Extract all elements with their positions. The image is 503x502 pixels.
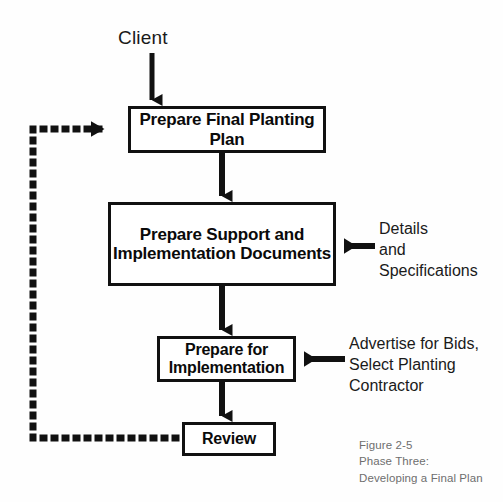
node-prepare-support-and-implementation-documents[interactable]: Prepare Support and Implementation Docum…	[108, 202, 336, 286]
node-review[interactable]: Review	[182, 422, 276, 456]
node-prepare-for-implementation[interactable]: Prepare for Implementation	[157, 336, 296, 382]
client-label: Client	[118, 26, 168, 51]
node-prepare-final-planting-plan[interactable]: Prepare Final Planting Plan	[128, 106, 326, 153]
figure-caption: Figure 2-5 Phase Three: Developing a Fin…	[359, 437, 483, 486]
annotation-details-and-specifications: Details and Specifications	[379, 219, 478, 281]
annotation-advertise-for-bids: Advertise for Bids, Select Planting Cont…	[349, 334, 479, 396]
